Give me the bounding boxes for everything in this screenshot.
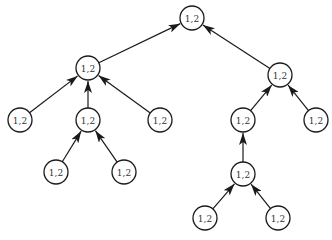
- node-label: 1,2: [185, 14, 199, 24]
- tree-node: 1,2: [180, 6, 204, 30]
- edge-arrow-n11-to-n10: [213, 184, 235, 209]
- nodes-layer: 1,21,21,21,21,21,21,21,21,21,21,21,21,2: [8, 6, 328, 230]
- node-label: 1,2: [271, 214, 285, 224]
- node-label: 1,2: [13, 116, 27, 126]
- tree-node: 1,2: [266, 206, 290, 230]
- edge-arrow-n9-to-n2: [288, 85, 308, 110]
- node-label: 1,2: [117, 168, 131, 178]
- edge-arrow-n2-to-n0: [203, 25, 270, 68]
- tree-diagram: 1,21,21,21,21,21,21,21,21,21,21,21,21,2: [0, 0, 332, 240]
- tree-node: 1,2: [112, 160, 136, 184]
- tree-node: 1,2: [76, 56, 100, 80]
- tree-node: 1,2: [76, 108, 100, 132]
- edge-arrow-n5-to-n1: [99, 76, 151, 113]
- tree-node: 1,2: [148, 108, 172, 132]
- edge-arrow-n3-to-n1: [30, 76, 78, 113]
- node-label: 1,2: [198, 214, 212, 224]
- node-label: 1,2: [236, 170, 250, 180]
- node-label: 1,2: [309, 116, 323, 126]
- tree-node: 1,2: [193, 206, 217, 230]
- node-label: 1,2: [81, 116, 95, 126]
- edge-arrow-n8-to-n2: [251, 85, 272, 111]
- edge-arrow-n12-to-n10: [251, 184, 270, 208]
- tree-node: 1,2: [44, 160, 68, 184]
- edge-arrow-n7-to-n4: [95, 131, 117, 162]
- tree-node: 1,2: [304, 108, 328, 132]
- tree-node: 1,2: [268, 63, 292, 87]
- node-label: 1,2: [273, 71, 287, 81]
- edge-arrow-n6-to-n4: [62, 131, 81, 162]
- edge-arrow-n1-to-n0: [99, 24, 180, 63]
- tree-node: 1,2: [8, 108, 32, 132]
- node-label: 1,2: [153, 116, 167, 126]
- tree-node: 1,2: [231, 162, 255, 186]
- tree-node: 1,2: [231, 108, 255, 132]
- node-label: 1,2: [49, 168, 63, 178]
- node-label: 1,2: [236, 116, 250, 126]
- node-label: 1,2: [81, 64, 95, 74]
